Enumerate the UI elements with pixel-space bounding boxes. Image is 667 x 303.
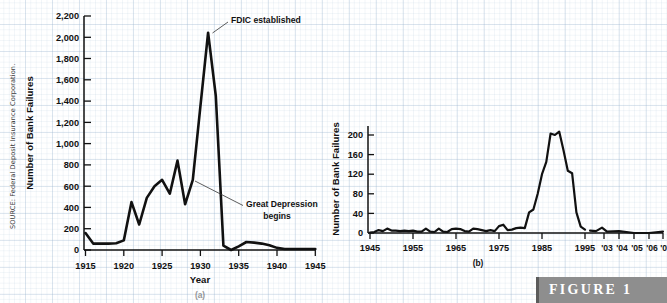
panel-a-ytick-600: 600: [64, 182, 79, 192]
panel-a-ytick-2000: 2,000: [56, 33, 79, 43]
panel-b-ytick-0: 0: [358, 228, 363, 238]
panel-a-ytick-1400: 1,400: [56, 96, 79, 106]
panel-b-xtick-1945: 1945: [360, 243, 380, 253]
panel-b-xtick-05: '05: [631, 243, 643, 253]
panel-b-ytick-80: 80: [353, 189, 363, 199]
panel-a-annotation-depression-line1: Great Depression: [246, 199, 318, 209]
panel-b-y-axis-title: Number of Bank Failures: [330, 122, 341, 236]
panel-b-svg: 0 40 80 120 160 200 Number of Bank Failu…: [330, 0, 667, 303]
panel-b-xtick-03: '03: [601, 243, 613, 253]
panel-a-ytick-1000: 1,000: [56, 139, 79, 149]
panel-a-ytick-1600: 1,600: [56, 75, 79, 85]
panel-a-svg: 0 200 400 600 800 1,000 1,200 1,400 1,60…: [0, 0, 330, 303]
panel-b-xtick-1995: 1995: [575, 243, 595, 253]
panel-a-ytick-800: 800: [64, 160, 79, 170]
panel-b-x-ticks: [370, 233, 663, 239]
panel-a-x-axis-title: Year: [190, 274, 211, 285]
panel-a-ytick-400: 400: [64, 203, 79, 213]
figure-banner: FIGURE 1: [536, 277, 667, 303]
panel-a-ytick-1200: 1,200: [56, 118, 79, 128]
panel-a-xtick-1920: 1920: [114, 261, 134, 271]
panel-b-subplot-label: (b): [473, 258, 484, 268]
panel-b-ytick-160: 160: [348, 150, 363, 160]
panel-b-xtick-1955: 1955: [403, 243, 423, 253]
panel-a-xtick-1915: 1915: [75, 261, 95, 271]
panel-b-ytick-40: 40: [353, 209, 363, 219]
panel-b-ytick-120: 120: [348, 169, 363, 179]
panel-b-xtick-04: '04: [616, 243, 628, 253]
panel-b-y-ticks: [368, 135, 374, 233]
panel-a-xtick-1945: 1945: [305, 261, 325, 271]
figure-page: SOURCE: Federal Deposit Insurance Corpor…: [0, 0, 667, 303]
panel-b-xtick-1975: 1975: [489, 243, 509, 253]
panel-a-x-ticks: [86, 250, 316, 256]
panel-a-annotation-depression-line2: begins: [263, 211, 291, 221]
panel-a-ytick-2200: 2,200: [56, 11, 79, 21]
panel-a-leader-fdic: [213, 22, 229, 33]
panel-a-annotation-fdic: FDIC established: [231, 15, 301, 25]
panel-b-xtick-1965: 1965: [446, 243, 466, 253]
panel-a-chart: 0 200 400 600 800 1,000 1,200 1,400 1,60…: [0, 0, 330, 303]
panel-b-series-line: [370, 132, 585, 233]
panel-a-xtick-1930: 1930: [190, 261, 210, 271]
panel-a-ytick-0: 0: [74, 245, 79, 255]
panel-a-y-ticks: [84, 16, 91, 250]
panel-b-xtick-1985: 1985: [532, 243, 552, 253]
panel-b-chart: 0 40 80 120 160 200 Number of Bank Failu…: [330, 0, 667, 303]
panel-b-xtick-07: '07: [660, 243, 667, 253]
panel-a-ytick-1800: 1,800: [56, 54, 79, 64]
panel-a-leader-depression: [195, 181, 243, 206]
panel-b-series-line-recent: [590, 228, 663, 233]
panel-a-xtick-1940: 1940: [267, 261, 287, 271]
panel-a-y-axis-title: Number of Bank Failures: [24, 76, 35, 190]
panel-b-ytick-200: 200: [348, 130, 363, 140]
panel-b-xtick-06: '06: [646, 243, 658, 253]
panel-a-xtick-1935: 1935: [228, 261, 248, 271]
panel-a-ytick-200: 200: [64, 224, 79, 234]
panel-a-subplot-label: (a): [195, 290, 205, 300]
panel-a-xtick-1925: 1925: [152, 261, 172, 271]
